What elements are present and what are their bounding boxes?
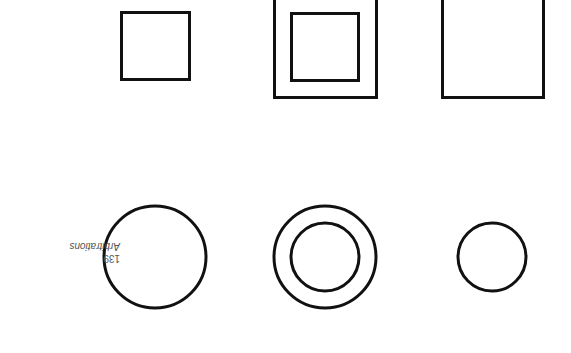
square-inner-middle xyxy=(292,14,359,81)
rotated-label: 139 Arbitrations xyxy=(60,240,120,264)
square-small-left xyxy=(122,13,190,80)
circle-small-right xyxy=(458,223,526,291)
circle-inner-middle xyxy=(291,223,359,291)
rect-right xyxy=(443,0,544,98)
label-number: 139 xyxy=(60,252,120,264)
shapes-canvas xyxy=(0,0,571,353)
label-text: Arbitrations xyxy=(60,240,120,252)
circle-outer-middle xyxy=(274,206,376,308)
